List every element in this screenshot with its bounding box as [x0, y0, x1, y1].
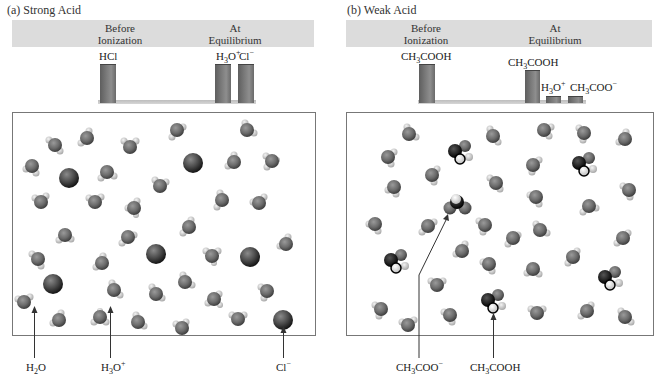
callout-label-cl: Cl− — [276, 361, 291, 373]
callout-lines-weak — [330, 0, 661, 381]
callout-label-h3o: H3O+ — [101, 361, 125, 373]
callout-label-ch3cooh: CH3COOH — [470, 361, 520, 373]
callout-label-h2o: H2O — [26, 361, 46, 373]
callout-label-ch3coo: CH3COO− — [396, 361, 443, 373]
callout-arrowheads-strong — [0, 0, 330, 381]
